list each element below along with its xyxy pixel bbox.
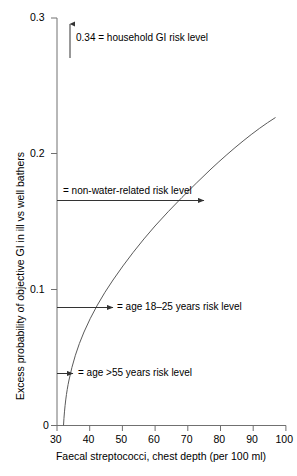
y-tick-label-0.2: 0.2 bbox=[30, 148, 45, 159]
axis-lines bbox=[57, 18, 286, 426]
x-tick-label-60: 60 bbox=[148, 434, 160, 445]
x-tick-label-50: 50 bbox=[115, 434, 127, 445]
annotation-label-age-over-55: = age >55 years risk level bbox=[78, 368, 192, 378]
annotation-label-non-water-related: = non-water-related risk level bbox=[63, 186, 192, 196]
x-axis-ticks bbox=[57, 426, 286, 432]
x-tick-label-100: 100 bbox=[276, 434, 294, 445]
y-tick-label-0: 0 bbox=[43, 420, 49, 431]
annotation-label-age-18-25: = age 18–25 years risk level bbox=[117, 302, 242, 312]
x-tick-label-30: 30 bbox=[50, 434, 62, 445]
data-curve bbox=[64, 118, 276, 426]
y-tick-label-0.3: 0.3 bbox=[30, 12, 45, 23]
x-tick-label-40: 40 bbox=[83, 434, 95, 445]
y-tick-label-0.1: 0.1 bbox=[30, 284, 45, 295]
annotation-label-household-gi: 0.34 = household GI risk level bbox=[76, 33, 208, 43]
x-axis-title: Faecal streptococci, chest depth (per 10… bbox=[36, 450, 286, 462]
y-axis-title: Excess probability of objective GI in il… bbox=[14, 152, 26, 400]
chart-figure: 0.3 0.2 0.1 0 30 40 50 60 70 80 90 100 E… bbox=[0, 0, 297, 476]
y-axis-ticks bbox=[51, 18, 57, 426]
plot-area bbox=[0, 0, 297, 476]
x-tick-label-70: 70 bbox=[181, 434, 193, 445]
x-tick-label-80: 80 bbox=[214, 434, 226, 445]
x-tick-label-90: 90 bbox=[246, 434, 258, 445]
